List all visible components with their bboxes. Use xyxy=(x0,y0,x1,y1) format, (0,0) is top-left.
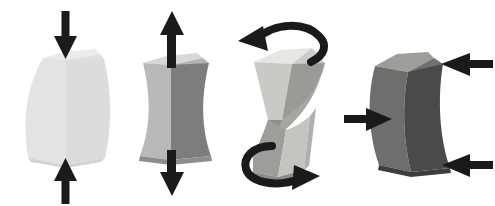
figure-svg xyxy=(0,0,495,206)
compression-right-face xyxy=(66,59,110,165)
deformation-figure xyxy=(0,0,495,206)
